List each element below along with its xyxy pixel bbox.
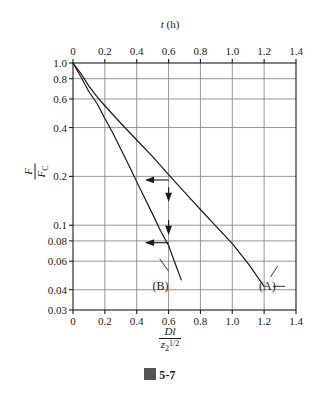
tick-label-left: 0.8 [53, 73, 67, 85]
tick-label-top: 0 [70, 45, 76, 57]
tick-label-left: 0.03 [48, 304, 68, 316]
leader-b [160, 259, 169, 271]
plot-border [73, 63, 296, 310]
curve-annotations [147, 177, 172, 245]
caption-number: 5-7 [159, 368, 176, 383]
y-axis-title: F FC [23, 151, 50, 191]
top-axis-symbol: t [161, 18, 164, 30]
x-axis-fraction: Dl z21/2 [159, 326, 182, 353]
leader-a [271, 266, 278, 277]
tick-label-bottom: 1.0 [225, 315, 239, 327]
arrow-down-to-curve-b-upper-head [166, 193, 171, 200]
grid-layer [73, 63, 296, 310]
tick-label-left: 0.6 [53, 93, 67, 105]
y-axis-fraction: F FC [23, 163, 50, 179]
tick-label-left: 0.08 [48, 235, 68, 247]
caption-cjk-glyph [144, 368, 156, 380]
tick-label-top: 1.2 [257, 45, 271, 57]
figure-root: 00.20.40.60.81.01.21.400.20.40.60.81.01.… [0, 0, 320, 400]
tick-label-top: 0.4 [130, 45, 144, 57]
x-axis-title: Dl z21/2 [130, 326, 210, 353]
tick-label-left: 1.0 [53, 57, 67, 69]
tick-label-top: 0.2 [98, 45, 112, 57]
top-axis-title: t (h) [120, 18, 220, 30]
figure-caption: 5-7 [0, 368, 320, 383]
curve-tag-b: (B) [153, 279, 169, 293]
tick-label-left: 0.4 [53, 122, 67, 134]
tick-label-left: 0.2 [53, 170, 67, 182]
arrow-down-to-curve-b-lower-head [166, 226, 171, 233]
tick-label-left: 0.06 [48, 255, 68, 267]
curve-labels: (A)(B) [153, 259, 285, 293]
y-axis-denominator: FC [35, 163, 49, 179]
x-axis-denominator: z21/2 [159, 339, 182, 353]
tick-label-top: 0.6 [162, 45, 176, 57]
tick-label-bottom: 1.2 [257, 315, 271, 327]
tick-marks [69, 59, 296, 314]
tick-label-top: 0.8 [194, 45, 208, 57]
tick-label-top: 1.0 [225, 45, 239, 57]
top-axis-unit: (h) [166, 18, 179, 30]
tick-label-left: 0.1 [53, 219, 67, 231]
tick-label-left: 0.04 [48, 284, 68, 296]
plot-frame [73, 63, 296, 310]
tick-label-bottom: 0 [70, 315, 76, 327]
arrow-left-to-curve-a-head [147, 177, 154, 182]
tick-label-top: 1.4 [289, 45, 303, 57]
tick-label-bottom: 0.2 [98, 315, 112, 327]
tick-label-bottom: 1.4 [289, 315, 303, 327]
